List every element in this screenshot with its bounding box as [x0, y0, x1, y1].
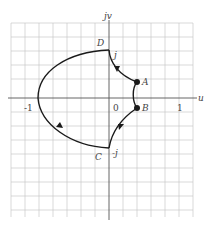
point-d-label: D — [96, 38, 104, 48]
point-b-marker — [134, 105, 140, 111]
point-a-label: A — [141, 77, 149, 87]
grid — [11, 23, 193, 217]
point-a-marker — [134, 79, 140, 85]
point-c-label: C — [95, 152, 102, 162]
real-axis-label: u — [198, 93, 204, 103]
tick-label-1: 1 — [177, 103, 183, 113]
imag-axis-label: jv — [102, 11, 112, 21]
point-b-label: B — [141, 103, 149, 113]
tick-label-j: j — [112, 50, 117, 60]
arrow-icon — [56, 122, 63, 128]
nyquist-diagram: jv u 0 -1 1 j -j D A B C — [0, 0, 208, 232]
tick-label-minus-1: -1 — [24, 103, 33, 113]
origin-label: 0 — [113, 103, 119, 113]
tick-label-minus-j: -j — [112, 148, 118, 158]
